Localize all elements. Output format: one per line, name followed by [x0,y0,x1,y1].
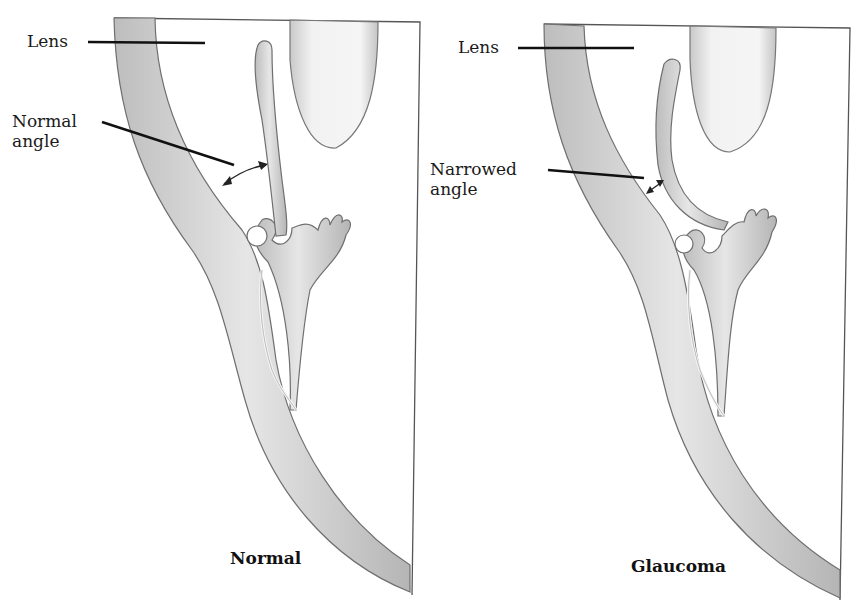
normal-angle-label-line2: angle [12,132,59,151]
lens-shape [290,20,378,148]
trabecular-opening [247,226,267,246]
normal-eye-illustration [0,0,430,607]
iris-shape [255,41,287,236]
normal-caption: Normal [230,548,301,568]
lens-leader-line [88,42,205,43]
lens-shape [690,26,776,152]
narrowed-angle-label-line1: Narrowed [430,160,517,179]
normal-angle-label-line1: Normal [12,112,77,131]
glaucoma-eye-illustration [428,0,857,607]
narrowed-angle-label-line2: angle [430,180,477,199]
glaucoma-caption: Glaucoma [631,556,726,576]
lens-label: Lens [458,38,499,57]
panel-normal: Lens Normal angle Normal [0,0,430,607]
lens-label: Lens [27,32,68,51]
trabecular-opening [675,235,693,253]
panel-glaucoma: Lens Narrowed angle Glaucoma [428,0,857,607]
cornea-sclera-shape [544,24,840,598]
